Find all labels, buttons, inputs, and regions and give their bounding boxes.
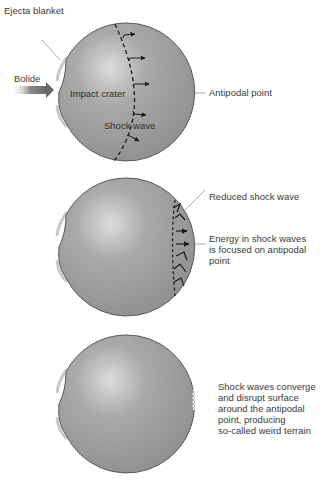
label-ejecta-blanket: Ejecta blanket	[4, 5, 64, 16]
label-weird-terrain: Shock waves converge and disrupt surface…	[218, 381, 316, 436]
panel-propagation	[57, 178, 206, 316]
label-bolide: Bolide	[14, 73, 40, 84]
bolide-arrow-icon	[10, 82, 54, 98]
label-reduced-shock-wave: Reduced shock wave	[209, 191, 299, 202]
reduced-leader	[185, 190, 205, 210]
ejecta-leader	[42, 40, 60, 60]
panel-convergence	[57, 335, 195, 473]
label-energy-focused: Energy in shock waves is focused on anti…	[209, 233, 306, 266]
sphere	[59, 335, 195, 473]
label-impact-crater: Impact crater	[70, 88, 125, 99]
label-shock-wave: Shock wave	[104, 120, 155, 131]
label-antipodal-point: Antipodal point	[209, 87, 272, 98]
sphere	[59, 178, 195, 316]
